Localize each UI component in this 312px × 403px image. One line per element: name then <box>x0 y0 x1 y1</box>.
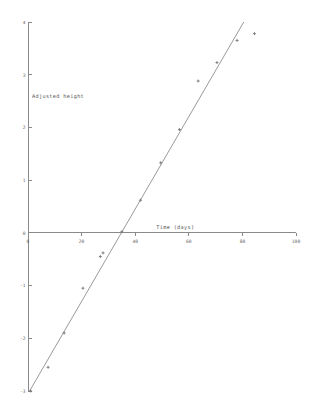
regression-line <box>30 22 244 391</box>
data-point-marker <box>47 366 50 369</box>
x-tick-label: 20 <box>79 239 85 244</box>
y-tick-label: -3 <box>20 389 26 394</box>
chart-canvas: 020406080100 -3-2-101234 Time (days) Adj… <box>0 0 312 403</box>
data-point-marker <box>236 39 239 42</box>
x-axis-ticks: 020406080100 <box>27 233 301 244</box>
y-axis-ticks: -3-2-101234 <box>20 20 32 394</box>
x-axis-title: Time (days) <box>156 224 194 231</box>
x-tick-label: 100 <box>292 239 301 244</box>
axes-group <box>28 22 296 391</box>
y-tick-label: -1 <box>20 283 26 288</box>
y-axis-title: Adjusted height <box>32 93 84 100</box>
data-point-marker <box>99 255 102 258</box>
y-tick-label: 1 <box>23 178 26 183</box>
y-tick-label: -2 <box>20 336 26 341</box>
x-tick-label: 0 <box>27 239 30 244</box>
data-point-marker <box>102 251 105 254</box>
x-tick-label: 40 <box>132 239 138 244</box>
y-tick-label: 0 <box>23 231 26 236</box>
x-tick-label: 60 <box>186 239 192 244</box>
y-tick-label: 2 <box>23 125 26 130</box>
scatter-plot-figure: 020406080100 -3-2-101234 Time (days) Adj… <box>0 0 312 403</box>
data-points <box>29 32 256 392</box>
fit-line-segment <box>30 22 244 391</box>
y-tick-label: 3 <box>23 73 26 78</box>
data-point-marker <box>29 390 32 393</box>
y-tick-label: 4 <box>23 20 26 25</box>
data-point-marker <box>197 80 200 83</box>
x-tick-label: 80 <box>240 239 246 244</box>
data-point-marker <box>253 32 256 35</box>
data-point-marker <box>215 61 218 64</box>
data-point-marker <box>81 287 84 290</box>
